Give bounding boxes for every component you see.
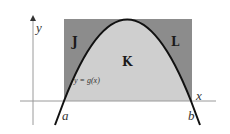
region-l-label: L: [171, 35, 180, 49]
curve-label: y = g(x): [73, 76, 100, 85]
region-k-label: K: [122, 55, 133, 69]
point-b-label: b: [188, 108, 195, 123]
region-j-label: J: [71, 35, 78, 49]
x-axis-label: x: [195, 88, 202, 103]
area-diagram: y x J K L y = g(x) a b: [0, 0, 230, 134]
y-axis-label: y: [34, 20, 42, 35]
point-a-label: a: [62, 108, 69, 123]
